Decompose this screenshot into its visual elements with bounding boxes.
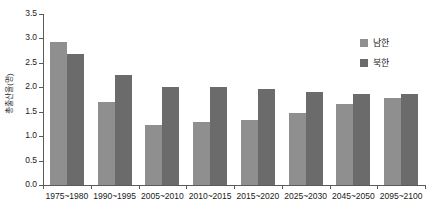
bar-북한-1990~1995 [115, 75, 132, 185]
bar-북한-2015~2020 [258, 89, 275, 185]
bar-남한-2010~2015 [193, 122, 210, 185]
y-axis-tick-label: 3.5 [25, 8, 37, 18]
bar-북한-2095~2100 [401, 94, 418, 185]
x-axis-label: 2095~2100 [377, 191, 425, 201]
bar-group [139, 14, 187, 185]
bar-북한-1975~1980 [67, 54, 84, 185]
x-axis-tick-mark [43, 185, 44, 189]
bar-북한-2005~2010 [162, 87, 179, 185]
legend-item-남한: 남한 [360, 36, 389, 49]
x-axis-label: 1975~1980 [43, 191, 91, 201]
bar-group [234, 14, 282, 185]
y-axis-tick-label: 3.0 [25, 32, 37, 42]
legend-swatch-icon [360, 59, 368, 67]
legend: 남한북한 [360, 36, 389, 69]
y-axis-tick-label: 2.5 [25, 57, 37, 67]
bar-남한-2025~2030 [289, 113, 306, 185]
bar-group [282, 14, 330, 185]
y-axis-tick-label: 2.0 [25, 81, 37, 91]
bar-남한-2045~2050 [336, 104, 353, 185]
y-axis-title-label: 총출산율(명) [3, 73, 14, 113]
bar-남한-1975~1980 [50, 42, 67, 185]
x-axis-tick-mark [91, 185, 92, 189]
bar-group [91, 14, 139, 185]
bar-group-bars [186, 14, 234, 185]
bar-남한-2015~2020 [241, 120, 258, 185]
x-axis-label: 2015~2020 [234, 191, 282, 201]
y-axis-tick-label: 1.5 [25, 106, 37, 116]
legend-swatch-icon [360, 39, 368, 47]
y-axis-title: 총출산율(명) [0, 0, 16, 186]
bar-남한-2005~2010 [145, 125, 162, 185]
bar-북한-2025~2030 [306, 92, 323, 185]
legend-item-북한: 북한 [360, 56, 389, 69]
x-axis-tick-mark [282, 185, 283, 189]
x-axis-label: 2005~2010 [139, 191, 187, 201]
bar-group-bars [234, 14, 282, 185]
bar-group-bars [139, 14, 187, 185]
bar-chart: 총출산율(명) 0.00.51.01.52.02.53.03.5 1975~19… [0, 0, 433, 220]
bar-group-bars [282, 14, 330, 185]
x-axis-tick-mark [234, 185, 235, 189]
y-axis-tick-label: 0.0 [25, 179, 37, 189]
y-axis-tick-label: 1.0 [25, 130, 37, 140]
x-axis-tick-mark [186, 185, 187, 189]
x-axis-label: 2025~2030 [282, 191, 330, 201]
bar-group [186, 14, 234, 185]
bar-북한-2045~2050 [353, 94, 370, 185]
y-axis-tick-label: 0.5 [25, 155, 37, 165]
legend-label: 남한 [373, 36, 389, 49]
x-axis-labels: 1975~19801990~19952005~20102010~20152015… [43, 191, 425, 201]
x-axis-tick-mark [377, 185, 378, 189]
x-axis-tick-mark [425, 185, 426, 189]
legend-label: 북한 [373, 56, 389, 69]
bar-group-bars [91, 14, 139, 185]
bar-group [43, 14, 91, 185]
x-axis-tick-mark [139, 185, 140, 189]
x-axis-tick-mark [330, 185, 331, 189]
bar-남한-1990~1995 [98, 102, 115, 185]
x-axis-label: 2045~2050 [330, 191, 378, 201]
bar-남한-2095~2100 [384, 98, 401, 185]
x-axis-label: 2010~2015 [186, 191, 234, 201]
x-axis-label: 1990~1995 [91, 191, 139, 201]
bar-group-bars [43, 14, 91, 185]
bar-북한-2010~2015 [210, 87, 227, 185]
